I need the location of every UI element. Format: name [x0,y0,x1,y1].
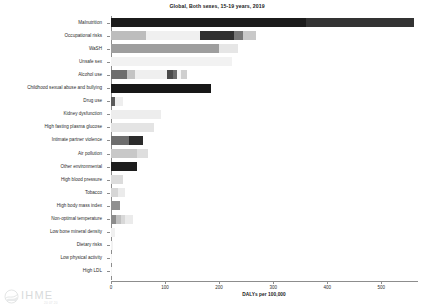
bar-segment[interactable] [111,175,123,184]
bar-segment[interactable] [111,84,211,93]
y-axis-label: Kidney dysfunction [63,108,102,120]
y-axis-tick [107,75,110,76]
x-axis-tick-label: 300 [260,285,286,290]
y-axis-label: High LDL [83,265,102,277]
bar-segment[interactable] [129,136,143,145]
bar-childhood-sexual-abuse-and-bullying[interactable] [111,84,417,93]
bar-segment[interactable] [111,267,112,276]
bar-low-physical-activity[interactable] [111,254,417,263]
y-axis-tick [107,167,110,168]
x-axis-title: DALYs per 100,000 [111,292,417,297]
bar-segment[interactable] [137,149,148,158]
bar-segment[interactable] [127,70,135,79]
bar-segment[interactable] [200,31,234,40]
y-axis-tick [107,245,110,246]
y-axis-label: Other environmental [60,161,102,173]
bar-segment[interactable] [111,162,137,171]
x-axis-tick [165,281,166,284]
bar-tobacco[interactable] [111,188,417,197]
bar-segment[interactable] [111,136,129,145]
bar-segment[interactable] [146,31,200,40]
y-axis-tick [107,258,110,259]
bar-air-pollution[interactable] [111,149,417,158]
y-axis-label: Non-optimal temperature [51,213,102,225]
y-axis-label: High body mass index [57,200,102,212]
bar-segment[interactable] [219,44,238,53]
y-axis-label: High blood pressure [61,174,102,186]
bar-segment[interactable] [111,57,232,66]
bar-segment[interactable] [111,201,120,210]
bar-segment[interactable] [306,18,414,27]
bar-non-optimal-temperature[interactable] [111,215,417,224]
bar-segment[interactable] [111,149,137,158]
y-axis-tick [107,271,110,272]
x-axis-tick [327,281,328,284]
bar-malnutrition[interactable] [111,18,417,27]
bar-segment[interactable] [125,215,133,224]
y-axis-label: Malnutrition [78,17,102,29]
y-axis-label: WaSH [89,43,102,55]
bar-drug-use[interactable] [111,97,417,106]
y-axis-tick [107,140,110,141]
bar-segment[interactable] [234,31,243,40]
bar-alcohol-use[interactable] [111,70,417,79]
x-axis-tick-label: 200 [206,285,232,290]
bar-segment[interactable] [135,70,167,79]
ihme-logo-text: IHME [21,289,53,301]
y-axis-labels: MalnutritionOccupational risksWaSHUnsafe… [0,16,107,278]
y-axis-tick [107,49,110,50]
y-axis-label: Tobacco [85,187,102,199]
x-axis-tick-label: 0 [98,285,124,290]
y-axis-tick [107,193,110,194]
bar-segment[interactable] [111,18,306,27]
y-axis-label: Childhood sexual abuse and bullying [27,82,102,94]
y-axis-tick [107,219,110,220]
bar-dietary-risks[interactable] [111,241,417,250]
bar-occupational-risks[interactable] [111,31,417,40]
bar-high-ldl[interactable] [111,267,417,276]
y-axis-tick [107,180,110,181]
bar-segment[interactable] [111,110,161,119]
bar-wash[interactable] [111,44,417,53]
ihme-logo-subtext: 20 07 20 [44,301,58,305]
x-axis-tick-label: 400 [314,285,340,290]
bar-segment[interactable] [115,97,123,106]
y-axis-tick [107,114,110,115]
bar-segment[interactable] [111,70,127,79]
y-axis-label: Unsafe sex [79,56,102,68]
y-axis-tick [107,154,110,155]
bar-high-fasting-plasma-glucose[interactable] [111,123,417,132]
bar-intimate-partner-violence[interactable] [111,136,417,145]
y-axis-tick [107,101,110,102]
y-axis-label: High fasting plasma glucose [45,121,102,133]
bar-segment[interactable] [118,188,124,197]
bar-segment[interactable] [111,241,113,250]
bar-segment[interactable] [111,228,115,237]
bar-other-environmental[interactable] [111,162,417,171]
bar-segment[interactable] [181,70,187,79]
y-axis-tick [107,62,110,63]
y-axis-label: Drug use [83,95,102,107]
bar-segment[interactable] [111,188,118,197]
bar-segment[interactable] [243,31,256,40]
x-axis-tick-label: 500 [368,285,394,290]
bar-segment[interactable] [111,254,112,263]
bar-low-bone-mineral-density[interactable] [111,228,417,237]
bar-unsafe-sex[interactable] [111,57,417,66]
x-axis-line [111,281,418,282]
x-axis-tick-label: 100 [152,285,178,290]
y-axis-label: Occupational risks [64,30,102,42]
x-axis-tick [381,281,382,284]
chart-title: Global, Both sexes, 15-19 years, 2019 [0,3,434,9]
y-axis-tick [107,127,110,128]
bar-kidney-dysfunction[interactable] [111,110,417,119]
bar-segment[interactable] [111,123,154,132]
y-axis-label: Intimate partner violence [52,134,102,146]
bar-segment[interactable] [111,44,219,53]
y-axis-label: Dietary risks [77,239,102,251]
bar-high-blood-pressure[interactable] [111,175,417,184]
y-axis-tick [107,232,110,233]
bar-segment[interactable] [111,31,146,40]
x-axis-tick [111,281,112,284]
bar-high-body-mass-index[interactable] [111,201,417,210]
